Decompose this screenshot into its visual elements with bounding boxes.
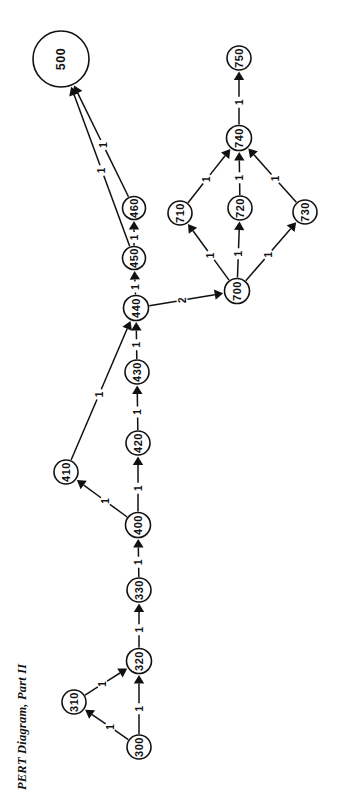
node-label-460: 460 [128,198,140,218]
node-740[interactable]: 740 [227,126,252,151]
edges-layer: 1111111111121111111111 [69,72,296,740]
node-label-300: 300 [133,737,145,757]
diagram-title-group: PERT Diagram, Part II [15,663,29,790]
edge-label-320-330: 1 [134,627,145,633]
node-310[interactable]: 310 [62,690,86,714]
node-label-400: 400 [132,515,144,535]
pert-diagram-page: 1111111111121111111111 30031032033040041… [0,0,346,803]
node-label-740: 740 [233,128,245,148]
edge-arrowhead [134,675,144,684]
edge-label-710-740: 1 [201,176,212,182]
node-label-310: 310 [68,692,80,712]
edge-arrowhead [130,271,140,280]
node-330[interactable]: 330 [127,578,151,602]
node-320[interactable]: 320 [127,649,152,674]
edge-label-400-420: 1 [133,485,144,491]
edge-arrowhead [133,457,143,466]
edge-710-to-740: 1 [188,149,230,203]
node-label-330: 330 [133,580,145,600]
edge-700-to-720: 1 [233,221,245,277]
edge-320-to-330: 1 [134,604,145,648]
edge-arrowhead [234,152,244,161]
node-label-710: 710 [174,203,186,223]
edge-450-to-500: 1 [69,87,129,247]
node-450[interactable]: 450 [123,247,146,270]
node-460[interactable]: 460 [123,197,146,220]
edge-arrowhead [77,480,87,489]
node-440[interactable]: 440 [124,296,149,321]
edge-arrowhead [234,72,244,81]
edge-300-to-310: 1 [85,710,128,740]
node-label-700: 700 [231,281,243,301]
edge-label-460-500: 1 [98,142,109,148]
edge-310-to-320: 1 [85,668,127,695]
edge-label-440-450: 1 [130,284,141,290]
node-label-750: 750 [233,48,245,68]
edge-label-420-430: 1 [132,409,143,415]
node-500[interactable]: 500 [33,31,89,87]
edge-arrowhead [131,322,141,331]
edge-label-450-460: 1 [129,234,140,240]
edge-arrowhead [188,224,197,234]
edge-450-to-460: 1 [129,221,140,246]
node-label-410: 410 [60,462,72,482]
edge-label-700-720: 1 [233,251,244,257]
edge-430-to-440: 1 [131,322,142,359]
edge-arrowhead [214,290,223,300]
node-label-320: 320 [133,651,145,671]
edge-700-to-730: 1 [246,222,296,281]
node-label-430: 430 [131,362,143,382]
edge-label-310-320: 1 [97,681,108,687]
edge-label-400-410: 1 [100,498,111,504]
node-label-450: 450 [128,248,140,268]
edge-label-410-440: 1 [94,391,105,397]
edge-label-450-500: 1 [96,167,107,173]
edge-420-to-430: 1 [132,385,143,430]
edge-720-to-740: 1 [234,152,245,195]
edge-label-720-740: 1 [234,175,245,181]
node-label-730: 730 [299,202,311,222]
edge-730-to-740: 1 [248,148,296,202]
node-730[interactable]: 730 [293,200,317,224]
edge-label-300-310: 1 [105,724,116,730]
edge-arrowhead [134,604,144,613]
edge-label-700-710: 1 [206,252,217,258]
node-label-420: 420 [132,433,144,453]
node-700[interactable]: 700 [225,279,250,304]
node-750[interactable]: 750 [227,46,251,70]
edge-400-to-420: 1 [133,457,144,512]
node-430[interactable]: 430 [125,360,149,384]
edge-label-440-700: 2 [177,297,188,303]
edge-label-700-730: 1 [263,252,274,258]
node-420[interactable]: 420 [126,431,150,455]
edge-label-330-400: 1 [133,559,144,565]
edge-arrowhead [129,221,139,230]
edge-460-to-500: 1 [73,85,128,196]
edge-300-to-320: 1 [134,675,145,734]
node-400[interactable]: 400 [126,513,151,538]
edge-arrowhead [85,710,95,719]
edge-arrowhead [132,385,142,394]
edge-label-430-440: 1 [131,342,142,348]
pert-diagram-canvas: 1111111111121111111111 30031032033040041… [0,0,346,803]
edge-arrowhead [133,539,143,548]
edge-label-300-320: 1 [134,706,145,712]
edge-440-to-700: 2 [149,290,223,306]
edge-400-to-410: 1 [77,480,127,517]
diagram-title: PERT Diagram, Part II [15,663,29,790]
edge-label-740-750: 1 [234,99,245,105]
node-410[interactable]: 410 [54,460,78,484]
edge-440-to-450: 1 [130,271,141,295]
node-label-440: 440 [130,298,142,318]
edge-410-to-440: 1 [71,321,132,460]
node-720[interactable]: 720 [228,196,252,220]
edge-label-730-740: 1 [270,175,281,181]
node-label-500: 500 [54,48,68,71]
node-label-720: 720 [234,198,246,218]
node-710[interactable]: 710 [168,201,192,225]
edge-arrowhead [221,149,230,159]
nodes-layer: 3003103203304004104204304404504605007007… [33,31,317,759]
node-300[interactable]: 300 [127,735,151,759]
edge-740-to-750: 1 [234,72,245,125]
edge-arrowhead [234,221,244,230]
